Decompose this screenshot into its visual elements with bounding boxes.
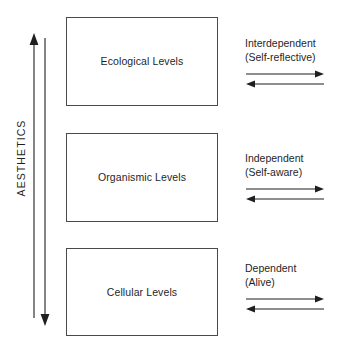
relation-title: Dependent bbox=[245, 261, 340, 275]
right-arrow-icon bbox=[246, 71, 324, 78]
aesthetics-up-arrow bbox=[30, 33, 39, 318]
relation-title: Interdependent bbox=[245, 36, 340, 50]
right-arrow-icon bbox=[246, 296, 324, 303]
relation-title: Independent bbox=[245, 151, 340, 165]
level-box-label: Organismic Levels bbox=[98, 171, 186, 184]
bidirectional-arrow-pair bbox=[245, 184, 325, 204]
aesthetics-down-arrow bbox=[41, 38, 50, 326]
diagram-canvas: AESTHETICS Ecological Levels Organismic … bbox=[0, 0, 340, 351]
left-arrow-icon bbox=[246, 81, 324, 88]
relation-subtitle: (Alive) bbox=[245, 275, 340, 289]
aesthetics-arrows-svg bbox=[22, 30, 62, 330]
relation-group-independent: Independent (Self-aware) bbox=[245, 151, 340, 204]
level-box-label: Ecological Levels bbox=[101, 55, 184, 68]
relation-subtitle: (Self-aware) bbox=[245, 165, 340, 179]
level-box-label: Cellular Levels bbox=[107, 286, 177, 299]
level-box-cellular: Cellular Levels bbox=[66, 248, 218, 336]
bidirectional-arrow-pair bbox=[245, 294, 325, 314]
left-arrow-icon bbox=[246, 306, 324, 313]
relation-group-interdependent: Interdependent (Self-reflective) bbox=[245, 36, 340, 89]
level-box-ecological: Ecological Levels bbox=[66, 17, 218, 106]
level-box-organismic: Organismic Levels bbox=[66, 133, 218, 222]
left-arrow-icon bbox=[246, 196, 324, 203]
relation-group-dependent: Dependent (Alive) bbox=[245, 261, 340, 314]
right-arrow-icon bbox=[246, 186, 324, 193]
bidirectional-arrow-pair bbox=[245, 69, 325, 89]
aesthetics-axis-group: AESTHETICS bbox=[0, 0, 62, 351]
relation-subtitle: (Self-reflective) bbox=[245, 50, 340, 64]
